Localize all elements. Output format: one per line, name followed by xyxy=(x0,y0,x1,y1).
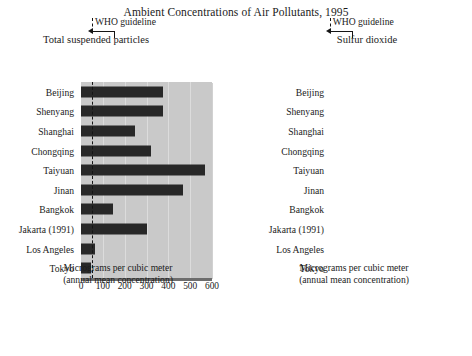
x-axis-title-line2-tsp: (annual mean concentration) xyxy=(0,274,236,286)
x-axis-title-line1-so2: Micrograms per cubic meter xyxy=(300,262,409,273)
panel-sulfur-dioxide: Sulfur dioxide BeijingShenyangShanghaiCh… xyxy=(236,34,472,309)
plot-area-tsp xyxy=(81,82,212,278)
bar xyxy=(81,184,183,195)
category-label: Los Angeles xyxy=(26,243,74,254)
bar xyxy=(81,86,163,97)
page-title: Ambient Concentrations of Air Pollutants… xyxy=(0,6,472,18)
category-label: Los Angeles xyxy=(276,243,324,254)
category-label: Bangkok xyxy=(289,204,324,215)
bar xyxy=(81,243,95,254)
arrow-left-icon xyxy=(88,28,93,34)
category-label: Chongqing xyxy=(31,145,74,156)
category-label: Jinan xyxy=(304,184,324,195)
arrow-left-icon xyxy=(326,28,331,34)
chart-figure: Ambient Concentrations of Air Pollutants… xyxy=(0,0,472,356)
bar xyxy=(81,165,205,176)
who-guideline-arrow-line-so2 xyxy=(330,31,353,32)
bar xyxy=(81,126,135,137)
bar xyxy=(81,204,113,215)
who-guideline-label-tsp: WHO guideline xyxy=(95,16,156,27)
category-axis-so2: BeijingShenyangShanghaiChongqingTaiyuanJ… xyxy=(258,82,328,278)
category-label: Chongqing xyxy=(281,145,324,156)
category-label: Shenyang xyxy=(36,106,74,117)
x-axis-title-so2: Micrograms per cubic meter (annual mean … xyxy=(236,262,472,286)
who-guideline-arrow-line-tsp xyxy=(92,31,115,32)
who-guideline-arrow-riser-so2 xyxy=(352,31,353,38)
category-label: Beijing xyxy=(296,86,324,97)
category-label: Shenyang xyxy=(286,106,324,117)
category-label: Taiyuan xyxy=(293,165,324,176)
category-label: Jinan xyxy=(54,184,74,195)
gridline xyxy=(190,82,191,278)
category-label: Shanghai xyxy=(288,126,324,137)
x-axis-title-tsp: Micrograms per cubic meter (annual mean … xyxy=(0,262,236,286)
category-label: Jakarta (1991) xyxy=(269,224,324,235)
category-label: Shanghai xyxy=(38,126,74,137)
category-label: Bangkok xyxy=(39,204,74,215)
who-guideline-label-so2: WHO guideline xyxy=(333,16,394,27)
category-label: Taiyuan xyxy=(43,165,74,176)
category-label: Beijing xyxy=(46,86,74,97)
bar xyxy=(81,224,147,235)
category-label: Jakarta (1991) xyxy=(19,224,74,235)
panel-total-suspended-particles: Total suspended particles BeijingShenyan… xyxy=(0,34,236,309)
x-axis-title-line2-so2: (annual mean concentration) xyxy=(236,274,472,286)
who-guideline-arrow-riser-tsp xyxy=(114,31,115,38)
who-guideline-annotation-tsp: WHO guideline xyxy=(81,18,201,42)
category-axis-tsp: BeijingShenyangShanghaiChongqingTaiyuanJ… xyxy=(6,82,78,278)
gridline xyxy=(168,82,169,278)
who-guideline-line xyxy=(92,82,93,278)
bar xyxy=(81,106,163,117)
who-guideline-annotation-so2: WHO guideline xyxy=(319,18,439,42)
x-axis-title-line1-tsp: Micrograms per cubic meter xyxy=(64,262,173,273)
